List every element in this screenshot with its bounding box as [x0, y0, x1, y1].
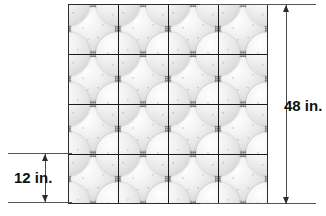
tile-array [68, 4, 268, 204]
arrow-overall-bottom-icon [283, 197, 289, 204]
tile-grid-line-horizontal [68, 54, 268, 55]
dimension-line-overall-height [286, 5, 287, 203]
dimension-label-overall-height: 48 in. [284, 98, 322, 113]
dimension-line-tile-height [45, 154, 46, 202]
dimension-label-tile-height: 12 in. [14, 170, 52, 185]
tile-grid-line-horizontal [68, 154, 268, 155]
extension-line-tile-bottom [8, 202, 72, 203]
extension-line-tile-top [8, 153, 72, 154]
tile-dimension-figure: 48 in. 12 in. [0, 0, 326, 216]
arrow-tile-top-icon [42, 154, 48, 161]
arrow-overall-top-icon [283, 5, 289, 12]
tile-grid-lines [68, 4, 268, 204]
arrow-tile-bottom-icon [42, 195, 48, 202]
tile-grid-line-horizontal [68, 104, 268, 105]
